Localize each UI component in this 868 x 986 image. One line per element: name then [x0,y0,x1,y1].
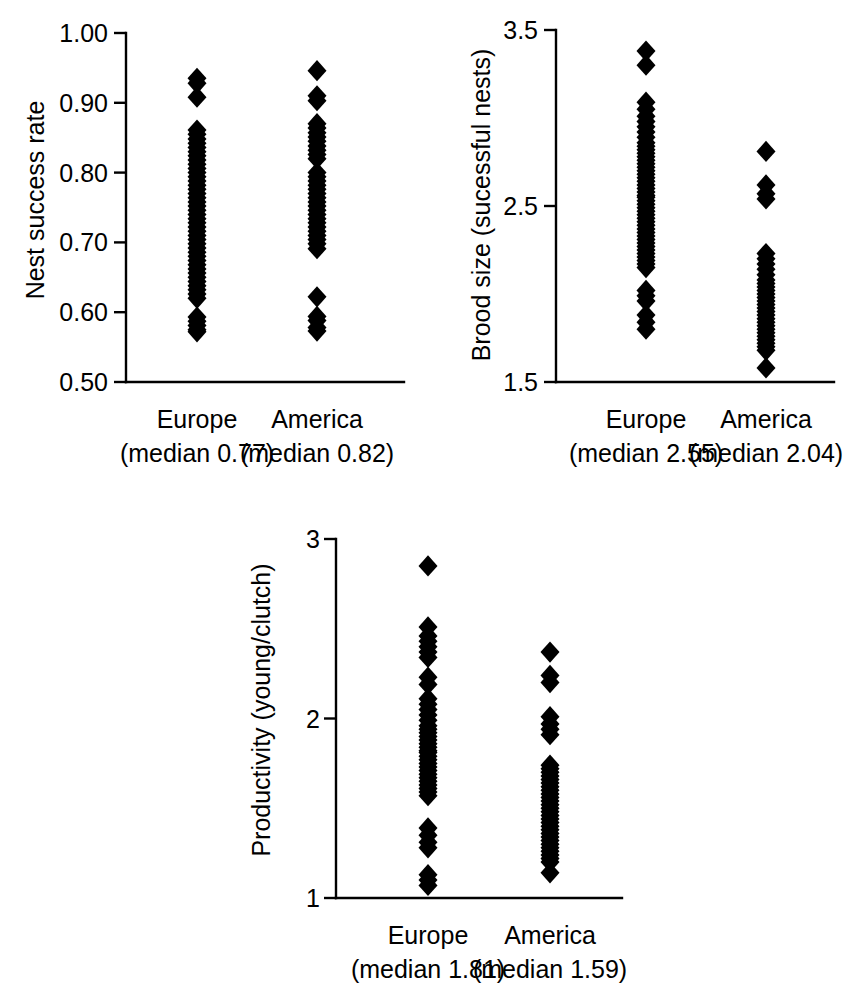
data-point-marker [757,141,776,162]
points-group-america-brood-size [757,141,776,379]
y-axis-tick-label: 3.5 [503,16,538,44]
y-axis-tick-label: 2.5 [503,192,538,220]
category-label-america-brood-size: America [720,405,812,433]
y-axis-tick-label: 0.80 [59,159,108,187]
data-point-marker [637,55,656,76]
y-axis-tick-label: 1 [306,884,320,912]
data-point-marker [188,87,207,108]
y-axis-tick-label: 1.5 [503,368,538,396]
y-axis-tick-label: 0.50 [59,368,108,396]
y-axis-title-productivity: Productivity (young/clutch) [247,563,275,856]
median-label-america-productivity: (median 1.59) [473,955,627,983]
category-label-america-nest-success-rate: America [271,405,363,433]
category-label-europe-nest-success-rate: Europe [157,405,238,433]
y-axis-title-nest-success-rate: Nest success rate [21,101,49,300]
y-axis-tick-label: 1.00 [59,19,108,47]
category-label-europe-productivity: Europe [388,921,469,949]
y-axis-tick-label: 0.70 [59,228,108,256]
points-group-america-productivity [541,641,560,883]
data-point-marker [757,357,776,378]
points-group-america-nest-success-rate [308,60,327,342]
data-point-marker [541,641,560,662]
points-group-europe-productivity [419,555,438,896]
y-axis-tick-label: 0.60 [59,298,108,326]
data-point-marker [419,555,438,576]
median-label-america-nest-success-rate: (median 0.82) [240,439,394,467]
panel-brood-size: Brood size (sucessful nests) 1.52.53.5 E… [434,0,868,493]
panel-productivity: Productivity (young/clutch) 123 Europe A… [216,493,668,986]
y-axis-title-brood-size: Brood size (sucessful nests) [467,49,495,362]
panel-nest-success-rate: Nest success rate 0.500.600.700.800.901.… [0,0,434,493]
panel-productivity-svg: Productivity (young/clutch) 123 Europe A… [216,493,668,986]
y-axis-tick-label: 3 [306,525,320,553]
points-group-europe-nest-success-rate [188,68,207,343]
y-axis-tick-label: 0.90 [59,89,108,117]
y-axis-tick-label: 2 [306,705,320,733]
data-point-marker [541,862,560,883]
points-group-europe-brood-size [637,40,656,339]
data-point-marker [308,60,327,81]
panel-nest-success-rate-svg: Nest success rate 0.500.600.700.800.901.… [0,0,434,493]
y-axis-ticks-brood-size: 1.52.53.5 [503,16,556,396]
y-axis-ticks-nest-success-rate: 0.500.600.700.800.901.00 [59,19,126,396]
data-point-marker [308,286,327,307]
y-axis-ticks-productivity: 123 [306,525,336,912]
category-label-america-productivity: America [504,921,596,949]
panel-brood-size-svg: Brood size (sucessful nests) 1.52.53.5 E… [434,0,868,493]
category-label-europe-brood-size: Europe [606,405,687,433]
median-label-america-brood-size: (median 2.04) [689,439,843,467]
figure-container: Nest success rate 0.500.600.700.800.901.… [0,0,868,986]
